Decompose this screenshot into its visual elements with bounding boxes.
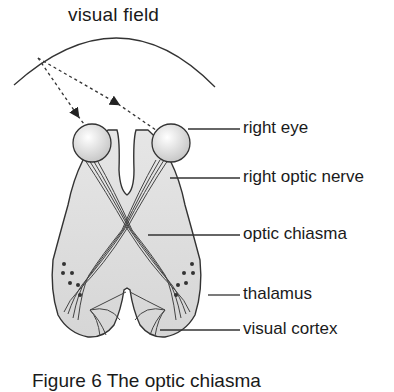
label-right-optic-nerve: right optic nerve — [243, 167, 364, 187]
label-right-eye: right eye — [243, 118, 308, 138]
label-optic-chiasma: optic chiasma — [243, 224, 347, 244]
visual-field-arc — [14, 38, 215, 87]
light-ray-left — [38, 58, 78, 116]
figure-caption: Figure 6 The optic chiasma — [32, 370, 261, 392]
right-eye — [152, 124, 190, 162]
left-eye — [73, 124, 111, 162]
light-ray-right — [38, 58, 118, 104]
diagram-title: visual field — [68, 4, 159, 26]
label-visual-cortex: visual cortex — [243, 319, 337, 339]
label-thalamus: thalamus — [243, 284, 312, 304]
